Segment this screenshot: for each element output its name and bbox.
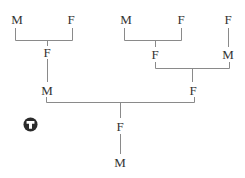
node-n5: F (224, 13, 231, 26)
node-n2: F (67, 13, 74, 26)
node-n3: M (120, 13, 132, 26)
node-n9: M (41, 84, 53, 97)
bracket-row2-right (156, 62, 230, 69)
node-n7: F (151, 48, 158, 61)
pedigree-lines (0, 0, 245, 178)
bracket-middle-pair (125, 28, 182, 41)
t-circle-icon (23, 117, 38, 132)
bracket-left-pair (16, 28, 73, 41)
node-n6: F (43, 46, 50, 59)
node-n11: F (116, 120, 123, 133)
node-n1: M (11, 13, 23, 26)
node-n4: F (177, 13, 184, 26)
node-n12: M (114, 156, 126, 169)
node-n10: F (189, 84, 196, 97)
node-n8: M (222, 48, 234, 61)
bracket-row3 (47, 97, 195, 103)
